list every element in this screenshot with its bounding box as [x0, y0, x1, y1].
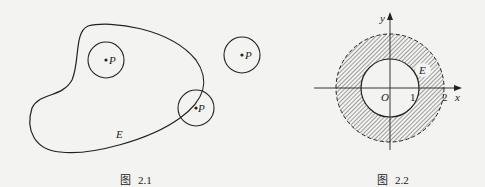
- figure-caption-number: 2.1: [138, 174, 152, 186]
- figure-2-1: P P P E 图 2.1: [30, 24, 260, 186]
- figure-caption-number: 2.2: [395, 174, 409, 186]
- figure-canvas: P P P E 图 2.1 E O 1 2 x y 图 2.2: [0, 0, 485, 187]
- point-label: P: [108, 54, 116, 66]
- y-axis-label: y: [379, 12, 385, 24]
- region-label: E: [418, 64, 426, 76]
- point-label: P: [197, 102, 205, 114]
- exterior-point-dot: [240, 53, 243, 56]
- figure-caption-prefix: 图: [377, 174, 388, 186]
- tick-label-2: 2: [442, 91, 448, 103]
- figure-caption-prefix: 图: [120, 174, 131, 186]
- point-label: P: [244, 49, 252, 61]
- figure-2-2: E O 1 2 x y 图 2.2: [314, 12, 462, 186]
- origin-label: O: [381, 91, 389, 103]
- interior-point-dot: [104, 58, 107, 61]
- tick-label-1: 1: [410, 91, 416, 103]
- y-axis-arrow-icon: [387, 12, 393, 20]
- region-label: E: [115, 128, 123, 140]
- x-axis-label: x: [454, 91, 460, 103]
